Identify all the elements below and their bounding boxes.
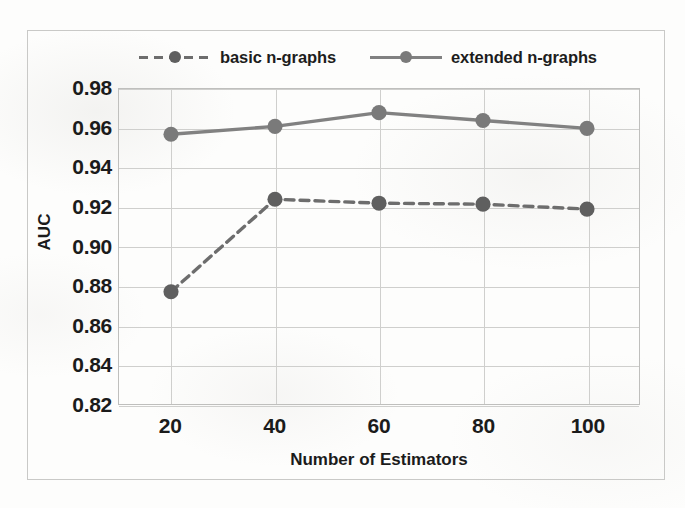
x-tick-label: 40 (235, 414, 315, 438)
x-tick-label: 80 (443, 414, 523, 438)
legend-dashed-line-marker-icon (139, 49, 211, 65)
y-tick-label: 0.82 (26, 393, 112, 417)
legend-label-basic-n-graphs: basic n-graphs (220, 48, 336, 67)
legend-item-extended-n-graphs[interactable]: extended n-graphs (370, 48, 597, 67)
y-axis-tick-labels: 0.980.960.940.920.900.880.860.840.82 (18, 88, 112, 405)
y-axis-title: AUC (35, 177, 55, 287)
chart-figure: basic n-graphs extended n-graphs 0.980.9… (0, 0, 685, 508)
y-tick-label: 0.98 (26, 76, 112, 100)
data-point (579, 202, 594, 217)
y-tick-label: 0.94 (26, 155, 112, 179)
data-point (371, 105, 386, 120)
x-axis-tick-labels: 20406080100 (118, 414, 640, 442)
series-line-basic-n-graphs (171, 199, 587, 292)
data-point (475, 197, 490, 212)
x-tick-label: 100 (548, 414, 628, 438)
gridline-horizontal (119, 406, 639, 407)
data-point (475, 113, 490, 128)
series-plot (119, 89, 639, 404)
x-axis-title: Number of Estimators (118, 450, 640, 470)
legend-label-extended-n-graphs: extended n-graphs (451, 48, 597, 67)
y-tick-label: 0.86 (26, 314, 112, 338)
legend-item-basic-n-graphs[interactable]: basic n-graphs (139, 48, 336, 67)
data-point (163, 127, 178, 142)
data-point (267, 119, 282, 134)
x-tick-label: 20 (130, 414, 210, 438)
data-point (579, 121, 594, 136)
y-tick-label: 0.84 (26, 353, 112, 377)
plot-area (118, 88, 640, 405)
chart-legend: basic n-graphs extended n-graphs (118, 42, 618, 72)
data-point (371, 196, 386, 211)
data-point (163, 284, 178, 299)
legend-solid-line-marker-icon (370, 49, 442, 65)
y-tick-label: 0.96 (26, 116, 112, 140)
data-point (267, 192, 282, 207)
x-tick-label: 60 (339, 414, 419, 438)
